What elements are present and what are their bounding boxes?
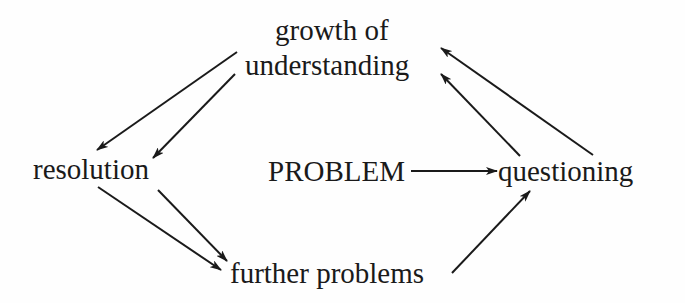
node-questioning: questioning [498,157,633,186]
node-growth-line1: growth of [275,16,389,45]
diagram-canvas: growth of understanding resolution PROBL… [0,0,685,303]
edge-growth-to-resolution-1 [97,52,237,150]
node-growth-line2: understanding [245,51,409,80]
edge-questioning-to-growth-2 [441,48,593,155]
node-problem: PROBLEM [268,157,405,186]
edge-growth-to-resolution-2 [153,74,235,158]
edge-resolution-to-further-1 [98,187,221,270]
edge-questioning-to-growth-1 [441,74,520,156]
node-resolution: resolution [33,155,149,184]
edge-further-to-questioning [452,191,530,273]
node-further-problems: further problems [230,259,424,288]
